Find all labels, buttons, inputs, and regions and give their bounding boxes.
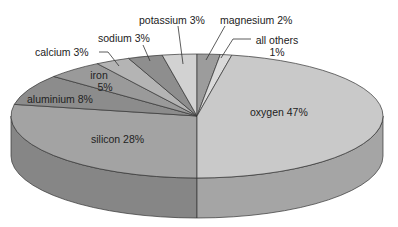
label-iron-value: 5% (84, 81, 114, 93)
pie-chart (0, 0, 398, 227)
label-all-others: all others 1% (251, 34, 303, 58)
label-potassium: potassium 3% (139, 14, 205, 26)
label-others-name: all others (251, 34, 303, 46)
label-others-value: 1% (251, 46, 303, 58)
label-oxygen: oxygen 47% (250, 106, 308, 118)
label-calcium: calcium 3% (35, 46, 89, 58)
label-iron: iron 5% (84, 69, 114, 93)
label-silicon: silicon 28% (91, 133, 144, 145)
label-aluminium: aluminium 8% (27, 93, 93, 105)
pie-slices (11, 54, 383, 178)
label-iron-name: iron (84, 69, 114, 81)
label-magnesium: magnesium 2% (220, 14, 292, 26)
label-sodium: sodium 3% (98, 32, 150, 44)
